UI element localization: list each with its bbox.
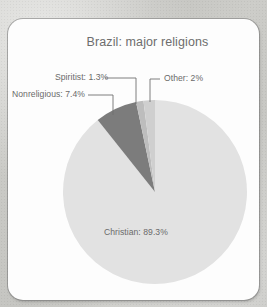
- pie-chart-svg: [8, 19, 259, 300]
- scanned-page-background: Brazil: major religions: [0, 0, 267, 307]
- leader-line-spiritist: [105, 78, 136, 104]
- pie-label-nonreligious: Nonreligious: 7.4%: [12, 89, 85, 99]
- chart-card: Brazil: major religions: [8, 19, 259, 300]
- pie-slices: [63, 100, 247, 284]
- pie-label-spiritist: Spiritist: 1.3%: [55, 72, 108, 82]
- pie-label-christian: Christian: 89.3%: [104, 227, 168, 237]
- leader-line-other: [150, 79, 160, 102]
- pie-chart-plot-area: Spiritist: 1.3% Nonreligious: 7.4% Other…: [8, 19, 259, 300]
- leader-line-nonreligious: [88, 95, 113, 115]
- pie-label-other: Other: 2%: [164, 73, 203, 83]
